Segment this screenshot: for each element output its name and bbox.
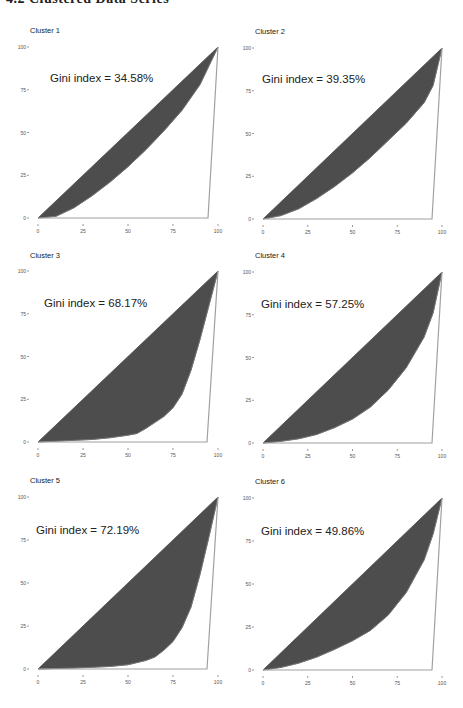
y-tick-label: 100	[243, 45, 252, 51]
chart-panel-2: Cluster 202550751000255075100Gini index …	[243, 27, 447, 235]
panel-title: Cluster 3	[30, 251, 60, 260]
y-tick-label: 0	[248, 216, 251, 222]
y-tick-label: 100	[243, 495, 252, 501]
panel-title: Cluster 2	[255, 27, 285, 36]
panel-title: Cluster 4	[255, 251, 285, 260]
x-tick-label: 100	[214, 679, 223, 685]
chart-panel-5: Cluster 502550751000255075100Gini index …	[18, 476, 223, 685]
panel-title: Cluster 1	[30, 26, 60, 35]
gini-annotation: Gini index = 57.25%	[261, 298, 364, 310]
y-tick-label: 75	[245, 88, 251, 94]
x-tick-label: 50	[350, 453, 356, 459]
x-tick-label: 75	[394, 680, 400, 686]
x-tick-label: 75	[394, 453, 400, 459]
y-tick-label: 25	[245, 397, 251, 403]
x-tick-label: 0	[37, 452, 40, 458]
gini-annotation: Gini index = 49.86%	[261, 525, 364, 537]
x-tick-label: 0	[37, 679, 40, 685]
gini-annotation: Gini index = 68.17%	[44, 297, 147, 309]
x-tick-label: 50	[350, 229, 356, 235]
y-tick-label: 25	[245, 173, 251, 179]
y-tick-label: 0	[248, 440, 251, 446]
y-tick-label: 50	[20, 580, 26, 586]
x-tick-label: 0	[262, 229, 265, 235]
y-tick-label: 75	[245, 312, 251, 318]
chart-panel-3: Cluster 302550751000255075100Gini index …	[18, 251, 223, 458]
y-tick-label: 0	[23, 666, 26, 672]
y-tick-label: 50	[20, 354, 26, 360]
y-tick-label: 100	[18, 494, 27, 500]
chart-panel-1: Cluster 102550751000255075100Gini index …	[18, 26, 223, 234]
x-tick-label: 25	[80, 679, 86, 685]
x-tick-label: 50	[350, 680, 356, 686]
x-tick-label: 75	[170, 228, 176, 234]
x-tick-label: 25	[80, 452, 86, 458]
panel-title: Cluster 5	[30, 476, 60, 485]
x-tick-label: 50	[125, 679, 131, 685]
x-tick-label: 25	[305, 680, 311, 686]
x-tick-label: 75	[170, 679, 176, 685]
x-tick-label: 25	[80, 228, 86, 234]
x-tick-label: 0	[262, 680, 265, 686]
x-tick-label: 100	[214, 228, 223, 234]
y-tick-label: 50	[20, 130, 26, 136]
x-tick-label: 50	[125, 228, 131, 234]
lorenz-curve-grid: Cluster 102550751000255075100Gini index …	[0, 0, 463, 708]
y-tick-label: 50	[245, 131, 251, 137]
x-tick-label: 100	[214, 452, 223, 458]
y-tick-label: 75	[245, 538, 251, 544]
x-tick-label: 100	[438, 680, 447, 686]
y-tick-label: 25	[245, 624, 251, 630]
x-tick-label: 25	[305, 229, 311, 235]
x-tick-label: 75	[394, 229, 400, 235]
x-tick-label: 100	[438, 453, 447, 459]
y-tick-label: 75	[20, 311, 26, 317]
x-tick-label: 25	[305, 453, 311, 459]
y-tick-label: 25	[20, 623, 26, 629]
x-tick-label: 50	[125, 452, 131, 458]
y-tick-label: 100	[243, 269, 252, 275]
y-tick-label: 0	[248, 667, 251, 673]
gini-annotation: Gini index = 72.19%	[36, 524, 139, 536]
y-tick-label: 100	[18, 44, 27, 50]
inequality-area	[263, 498, 442, 670]
y-tick-label: 25	[20, 172, 26, 178]
y-tick-label: 0	[23, 439, 26, 445]
gini-annotation: Gini index = 34.58%	[50, 72, 153, 84]
gini-annotation: Gini index = 39.35%	[262, 73, 365, 85]
x-tick-label: 100	[438, 229, 447, 235]
x-tick-label: 0	[262, 453, 265, 459]
y-tick-label: 100	[18, 268, 27, 274]
x-tick-label: 0	[37, 228, 40, 234]
y-tick-label: 0	[23, 215, 26, 221]
inequality-area	[38, 497, 218, 669]
y-tick-label: 50	[245, 355, 251, 361]
y-tick-label: 25	[20, 396, 26, 402]
x-tick-label: 75	[170, 452, 176, 458]
panel-title: Cluster 6	[255, 477, 285, 486]
y-tick-label: 75	[20, 537, 26, 543]
y-tick-label: 75	[20, 87, 26, 93]
y-tick-label: 50	[245, 581, 251, 587]
chart-panel-4: Cluster 402550751000255075100Gini index …	[243, 251, 447, 459]
chart-panel-6: Cluster 602550751000255075100Gini index …	[243, 477, 447, 686]
